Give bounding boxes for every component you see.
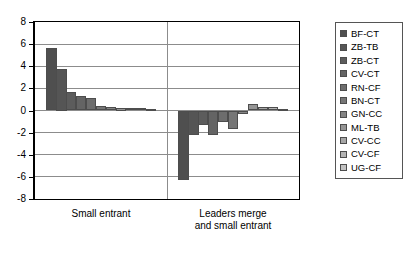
y-tick-label-2: 2: [20, 83, 26, 93]
bar-bf-ct-cat1: [178, 111, 188, 181]
bar-ml-tb-cat0: [116, 108, 126, 111]
bar-gn-cc-cat1: [238, 111, 248, 115]
y-axis: 86420-2-4-6-8: [0, 21, 34, 200]
bar-cv-ct-cat1: [208, 111, 218, 135]
bar-cv-cc-cat1: [258, 107, 268, 111]
bar-zb-tb-cat0: [56, 69, 66, 110]
legend-swatch-icon-ml-tb: [340, 124, 347, 131]
legend-item-bf-ct[interactable]: BF-CT: [340, 27, 399, 40]
y-tick-label-4: 4: [20, 61, 26, 71]
y-tick-label--6: -6: [17, 172, 26, 182]
legend-swatch-icon-gn-cc: [340, 111, 347, 118]
bar-ml-tb-cat1: [248, 104, 258, 110]
legend-label: BF-CT: [351, 29, 379, 39]
legend-label: BN-CT: [351, 96, 380, 106]
plot-area: [34, 21, 300, 200]
legend-swatch-icon-bn-ct: [340, 97, 347, 104]
legend-item-bn-ct[interactable]: BN-CT: [340, 94, 399, 107]
y-tick-label-6: 6: [20, 39, 26, 49]
legend-swatch-icon-ug-cf: [340, 164, 347, 171]
legend-label: ML-TB: [351, 123, 380, 133]
bar-cv-ct-cat0: [76, 96, 86, 111]
bar-group-0: [35, 22, 167, 199]
bar-bn-ct-cat1: [228, 111, 238, 130]
legend-label: GN-CC: [351, 109, 382, 119]
legend-swatch-icon-cv-ct: [340, 70, 347, 77]
bar-cv-cc-cat0: [126, 108, 136, 110]
legend-item-gn-cc[interactable]: GN-CC: [340, 107, 399, 120]
bar-ug-cf-cat0: [146, 109, 156, 111]
legend-item-ml-tb[interactable]: ML-TB: [340, 121, 399, 134]
legend-item-zb-tb[interactable]: ZB-TB: [340, 40, 399, 53]
legend: BF-CTZB-TBZB-CTCV-CTRN-CFBN-CTGN-CCML-TB…: [335, 22, 403, 179]
legend-item-cv-cc[interactable]: CV-CC: [340, 134, 399, 147]
legend-label: ZB-CT: [351, 56, 379, 66]
y-tick-label--8: -8: [17, 194, 26, 204]
legend-item-zb-ct[interactable]: ZB-CT: [340, 54, 399, 67]
bar-cv-cf-cat1: [268, 107, 278, 110]
bar-zb-ct-cat1: [198, 111, 208, 125]
legend-item-cv-ct[interactable]: CV-CT: [340, 67, 399, 80]
bar-rn-cf-cat0: [86, 98, 96, 110]
bar-zb-ct-cat0: [66, 92, 76, 111]
legend-label: CV-CF: [351, 149, 380, 159]
chart-root: 86420-2-4-6-8 Small entrant Leaders merg…: [0, 0, 408, 265]
bar-cv-cf-cat0: [136, 108, 146, 110]
y-tick-label-8: 8: [20, 17, 26, 27]
bar-bn-ct-cat0: [96, 106, 106, 111]
legend-item-cv-cf[interactable]: CV-CF: [340, 148, 399, 161]
y-tick-label--2: -2: [17, 128, 26, 138]
legend-label: UG-CF: [351, 163, 381, 173]
x-axis-label-leaders-merge: Leaders merge and small entrant: [167, 208, 299, 232]
bar-group-1: [167, 22, 299, 199]
bar-bf-ct-cat0: [46, 48, 56, 111]
legend-label: CV-CC: [351, 136, 381, 146]
legend-swatch-icon-cv-cf: [340, 151, 347, 158]
legend-swatch-icon-zb-tb: [340, 44, 347, 51]
legend-label: CV-CT: [351, 69, 380, 79]
legend-swatch-icon-bf-ct: [340, 30, 347, 37]
bar-ug-cf-cat1: [278, 109, 288, 111]
y-tick-label-0: 0: [20, 106, 26, 116]
legend-swatch-icon-rn-cf: [340, 84, 347, 91]
bar-rn-cf-cat1: [218, 111, 228, 122]
y-tick-label--4: -4: [17, 150, 26, 160]
legend-label: RN-CF: [351, 83, 381, 93]
bar-zb-tb-cat1: [188, 111, 198, 135]
legend-label: ZB-TB: [351, 42, 378, 52]
legend-swatch-icon-cv-cc: [340, 137, 347, 144]
x-axis-label-small-entrant: Small entrant: [35, 208, 167, 220]
legend-item-rn-cf[interactable]: RN-CF: [340, 81, 399, 94]
legend-swatch-icon-zb-ct: [340, 57, 347, 64]
legend-item-ug-cf[interactable]: UG-CF: [340, 161, 399, 174]
bar-gn-cc-cat0: [106, 107, 116, 111]
